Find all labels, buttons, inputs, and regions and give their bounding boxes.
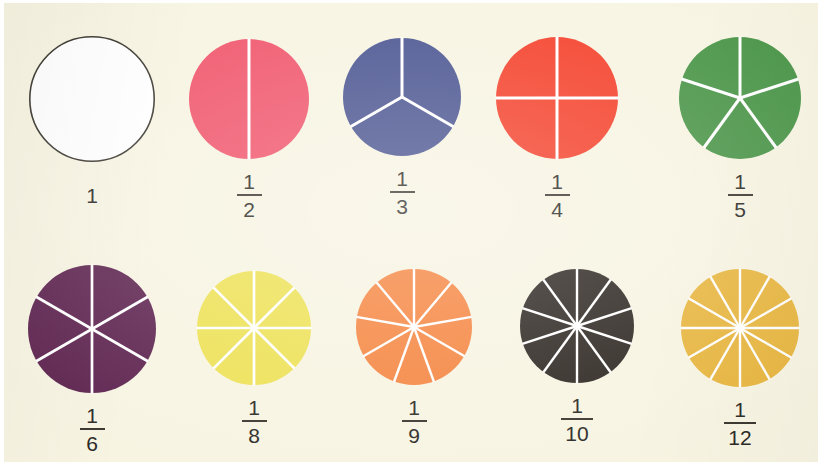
whole-number-label: 1 (86, 174, 98, 206)
fraction-denominator: 3 (390, 193, 415, 217)
disc-svg (340, 35, 464, 159)
disc (186, 36, 312, 162)
disc-svg (353, 266, 475, 388)
fraction-denominator: 4 (545, 196, 570, 220)
fraction-circle-3: 13 (322, 35, 482, 224)
disc-label: 18 (174, 397, 334, 453)
fraction-numerator: 1 (545, 171, 570, 194)
paper-background: 112131415161819110112 (4, 3, 818, 462)
fraction-circle-4: 14 (477, 34, 637, 227)
disc-svg (25, 262, 159, 396)
disc-svg (493, 34, 621, 162)
disc-svg (26, 33, 158, 165)
disc (678, 266, 802, 390)
fraction-circles-page: 112131415161819110112 (0, 0, 828, 470)
fraction-label: 16 (80, 405, 105, 454)
fraction-denominator: 6 (80, 430, 105, 454)
disc-label: 112 (660, 399, 820, 455)
fraction-numerator: 1 (723, 399, 756, 422)
fraction-circle-8: 18 (174, 268, 334, 453)
disc-label: 16 (12, 405, 172, 461)
fraction-circle-9: 19 (334, 266, 494, 453)
fraction-denominator: 12 (723, 424, 756, 448)
disc (340, 35, 464, 159)
disc (26, 33, 158, 165)
fraction-label: 112 (723, 399, 756, 448)
disc-svg (678, 266, 802, 390)
fraction-numerator: 1 (402, 397, 427, 420)
fraction-label: 18 (242, 397, 267, 446)
disc-label: 13 (322, 168, 482, 224)
disc-svg (194, 268, 314, 388)
disc-circle (30, 37, 154, 161)
fraction-circle-10: 110 (497, 266, 657, 451)
fraction-numerator: 1 (728, 171, 753, 194)
disc-label: 12 (169, 171, 329, 227)
fraction-numerator: 1 (390, 168, 415, 191)
disc-label: 15 (660, 171, 820, 227)
fraction-denominator: 8 (242, 422, 267, 446)
fraction-label: 110 (560, 395, 593, 444)
disc-svg (186, 36, 312, 162)
fraction-label: 13 (390, 168, 415, 217)
fraction-circle-5: 15 (660, 34, 820, 227)
fraction-numerator: 1 (80, 405, 105, 428)
fraction-circle-12: 112 (660, 266, 820, 455)
fraction-circle-2: 12 (169, 36, 329, 227)
disc-label: 19 (334, 397, 494, 453)
fraction-label: 14 (545, 171, 570, 220)
fraction-numerator: 1 (242, 397, 267, 420)
fraction-denominator: 5 (728, 196, 753, 220)
fraction-denominator: 9 (402, 422, 427, 446)
fraction-numerator: 1 (237, 171, 262, 194)
fraction-circle-: 1 (12, 33, 172, 230)
fraction-numerator: 1 (560, 395, 593, 418)
disc (517, 266, 637, 386)
disc-label: 110 (497, 395, 657, 451)
fraction-circle-6: 16 (12, 262, 172, 461)
disc (676, 34, 804, 162)
fraction-denominator: 2 (237, 196, 262, 220)
disc-label: 14 (477, 171, 637, 227)
disc (493, 34, 621, 162)
fraction-label: 15 (728, 171, 753, 220)
fraction-label: 12 (237, 171, 262, 220)
fraction-label: 19 (402, 397, 427, 446)
disc (194, 268, 314, 388)
disc (353, 266, 475, 388)
disc-label: 1 (12, 174, 172, 230)
disc-svg (517, 266, 637, 386)
disc (25, 262, 159, 396)
disc-svg (676, 34, 804, 162)
fraction-denominator: 10 (560, 420, 593, 444)
